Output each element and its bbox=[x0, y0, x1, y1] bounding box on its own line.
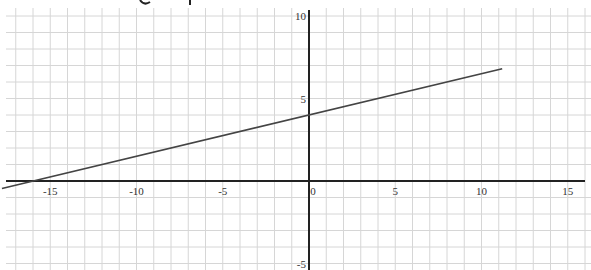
x-tick-label: 15 bbox=[562, 185, 574, 197]
x-tick-label: -15 bbox=[43, 185, 58, 197]
x-tick-label: 5 bbox=[393, 185, 399, 197]
cropped-title-fragment bbox=[140, 0, 190, 5]
y-tick-label: -5 bbox=[297, 258, 307, 270]
x-tick-label: -10 bbox=[129, 185, 144, 197]
data-line bbox=[2, 69, 502, 189]
grid-lines bbox=[6, 0, 591, 270]
series-line bbox=[2, 69, 502, 189]
x-tick-label: 10 bbox=[476, 185, 488, 197]
y-tick-label: 10 bbox=[295, 10, 307, 22]
x-tick-label: -5 bbox=[218, 185, 228, 197]
x-tick-label: 0 bbox=[310, 185, 316, 197]
y-tick-label: 5 bbox=[301, 93, 307, 105]
line-graph: -15-10-5051015-5510 bbox=[0, 0, 591, 270]
